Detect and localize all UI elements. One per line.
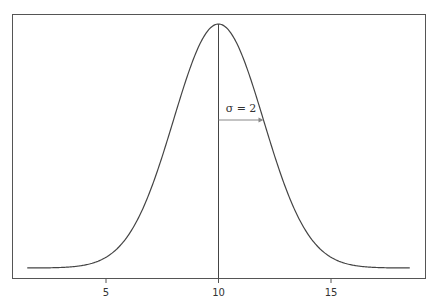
sigma-label: σ = 2 bbox=[226, 102, 257, 115]
x-tick-label: 15 bbox=[325, 287, 338, 298]
chart: σ = 2 51015 bbox=[0, 0, 437, 306]
x-tick-label: 10 bbox=[212, 287, 225, 298]
x-tick-label: 5 bbox=[103, 287, 109, 298]
x-axis-ticks: 51015 bbox=[103, 279, 338, 299]
